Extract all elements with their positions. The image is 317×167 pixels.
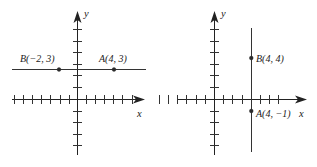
left-x-axis-label: x	[136, 108, 142, 119]
left-graph-canvas: B(−2, 3) A(4, 3) y x	[0, 0, 158, 167]
right-y-axis-label: y	[220, 8, 226, 19]
figure-root: B(−2, 3) A(4, 3) y x	[0, 0, 317, 167]
right-point-a-marker	[249, 109, 253, 113]
left-point-a-label: A(4, 3)	[98, 53, 127, 65]
left-y-axis-label: y	[83, 8, 89, 19]
right-point-a-label: A(4, −1)	[255, 108, 291, 120]
right-coordinate-graph: B(4, 4) A(4, −1) y x	[158, 0, 317, 167]
left-point-b-marker	[57, 68, 61, 72]
right-graph-canvas: B(4, 4) A(4, −1) y x	[158, 0, 317, 167]
right-x-axis-label: x	[298, 108, 304, 119]
left-point-a-marker	[112, 68, 116, 72]
left-point-b-label: B(−2, 3)	[20, 53, 55, 65]
right-point-b-label: B(4, 4)	[256, 53, 284, 65]
left-coordinate-graph: B(−2, 3) A(4, 3) y x	[0, 0, 158, 167]
right-point-b-marker	[249, 56, 253, 60]
